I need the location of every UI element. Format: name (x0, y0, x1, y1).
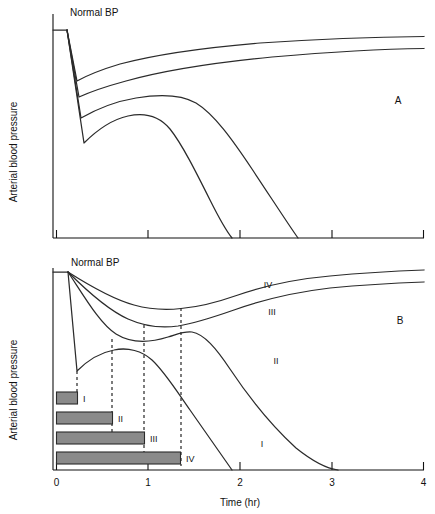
duration-bar-iii (57, 432, 145, 444)
duration-bar-iv (57, 452, 181, 464)
duration-bar-ii (57, 412, 113, 424)
panel-b-y-axis-label: Arterial blood pressure (8, 339, 19, 440)
panel-b-label: B (397, 315, 404, 326)
duration-bar-i (57, 392, 78, 404)
panel-b-normal-bp-label: Normal BP (71, 257, 120, 268)
panel-b-xtick-4: 4 (421, 477, 427, 488)
duration-bar-label-iv: IV (186, 454, 195, 464)
panel-b-xtick-2: 2 (237, 477, 243, 488)
panel-b-xtick-0: 0 (54, 477, 60, 488)
panel-b-curve-label-ii: II (273, 356, 278, 366)
panel-b-xtick-1: 1 (145, 477, 151, 488)
panel-b-xtick-3: 3 (329, 477, 335, 488)
blood-pressure-figure: Arterial blood pressure Normal BP (0, 0, 435, 514)
panel-b-x-axis-label: Time (hr) (220, 497, 260, 508)
panel-b-curve-label-i: I (261, 439, 264, 449)
duration-bar-label-iii: III (150, 434, 158, 444)
figure-container: Arterial blood pressure Normal BP (0, 0, 435, 514)
panel-b-curve-label-iii: III (268, 307, 276, 317)
panel-b-curve-label-iv: IV (264, 280, 273, 290)
panel-a-label: A (395, 95, 402, 106)
duration-bar-label-ii: II (118, 414, 123, 424)
panel-a-y-axis-label: Arterial blood pressure (8, 101, 19, 202)
duration-bar-label-i: I (83, 394, 86, 404)
panel-a-normal-bp-label: Normal BP (70, 7, 119, 18)
